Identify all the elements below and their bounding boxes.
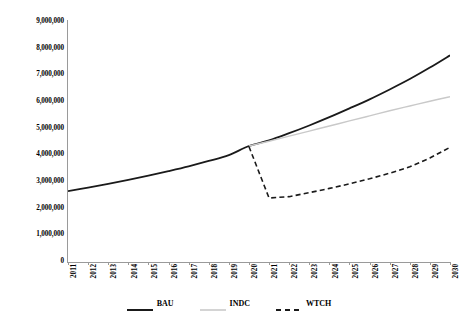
legend-swatch-wtch bbox=[276, 300, 302, 308]
x-axis-tick-label: 2015 bbox=[152, 264, 159, 278]
x-axis-tick-mark bbox=[128, 262, 129, 265]
x-axis-tick-mark bbox=[88, 262, 89, 265]
series-line-wtch bbox=[249, 147, 450, 198]
x-axis-tick-mark bbox=[169, 262, 170, 265]
legend-item-indc[interactable]: INDC bbox=[200, 300, 250, 308]
legend-item-bau[interactable]: BAU bbox=[127, 300, 174, 308]
x-axis-tick-label: 2021 bbox=[272, 264, 279, 278]
x-axis-labels: 2011201220132014201520162017201820192020… bbox=[68, 264, 450, 304]
x-axis-tick-label: 2030 bbox=[453, 264, 460, 278]
legend-item-wtch[interactable]: WTCH bbox=[276, 300, 331, 308]
x-axis-tick-mark bbox=[229, 262, 230, 265]
x-axis-tick-mark bbox=[349, 262, 350, 265]
x-axis-tick-label: 2012 bbox=[91, 264, 98, 278]
x-axis-tick-label: 2016 bbox=[172, 264, 179, 278]
x-axis-tick-mark bbox=[209, 262, 210, 265]
y-axis-tick-label: 1,000,000 bbox=[2, 232, 64, 239]
x-axis-tick-mark bbox=[370, 262, 371, 265]
y-axis-tick-label: 0 bbox=[2, 258, 64, 265]
x-axis-tick-label: 2028 bbox=[413, 264, 420, 278]
x-axis-tick-mark bbox=[189, 262, 190, 265]
y-axis-tick-label: 9,000,000 bbox=[2, 18, 64, 25]
x-axis-tick-label: 2019 bbox=[232, 264, 239, 278]
x-axis-tick-label: 2026 bbox=[373, 264, 380, 278]
x-axis-tick-mark bbox=[68, 262, 69, 265]
x-axis-tick-mark bbox=[249, 262, 250, 265]
x-axis-tick-label: 2025 bbox=[353, 264, 360, 278]
x-axis-tick-mark bbox=[430, 262, 431, 265]
plot-area bbox=[68, 22, 450, 262]
x-axis-tick-label: 2011 bbox=[71, 264, 78, 278]
y-axis-tick-label: 4,000,000 bbox=[2, 152, 64, 159]
legend-label: BAU bbox=[157, 300, 174, 308]
y-axis-tick-label: 5,000,000 bbox=[2, 125, 64, 132]
x-axis-tick-mark bbox=[450, 262, 451, 265]
x-axis-tick-label: 2023 bbox=[312, 264, 319, 278]
chart-legend: BAUINDCWTCH bbox=[0, 300, 458, 308]
x-axis-tick-mark bbox=[108, 262, 109, 265]
x-axis-tick-mark bbox=[410, 262, 411, 265]
x-axis-tick-mark bbox=[329, 262, 330, 265]
legend-label: WTCH bbox=[306, 300, 331, 308]
y-axis-tick-label: 7,000,000 bbox=[2, 72, 64, 79]
x-axis-tick-label: 2024 bbox=[333, 264, 340, 278]
x-axis-tick-label: 2014 bbox=[132, 264, 139, 278]
x-axis-tick-mark bbox=[269, 262, 270, 265]
x-axis-tick-label: 2020 bbox=[252, 264, 259, 278]
x-axis-tick-mark bbox=[289, 262, 290, 265]
y-axis-tick-label: 6,000,000 bbox=[2, 98, 64, 105]
x-axis-tick-label: 2027 bbox=[393, 264, 400, 278]
legend-swatch-indc bbox=[200, 300, 226, 308]
y-axis-tick-label: 2,000,000 bbox=[2, 205, 64, 212]
y-axis-labels: 01,000,0002,000,0003,000,0004,000,0005,0… bbox=[0, 0, 64, 325]
series-line-indc bbox=[249, 97, 450, 146]
y-axis-tick-label: 8,000,000 bbox=[2, 45, 64, 52]
series-layer bbox=[68, 22, 450, 262]
x-axis-tick-label: 2022 bbox=[292, 264, 299, 278]
x-axis-tick-label: 2018 bbox=[212, 264, 219, 278]
legend-label: INDC bbox=[230, 300, 250, 308]
x-axis-tick-mark bbox=[390, 262, 391, 265]
x-axis-line bbox=[67, 262, 451, 263]
x-axis-tick-label: 2029 bbox=[433, 264, 440, 278]
x-axis-tick-label: 2017 bbox=[192, 264, 199, 278]
x-axis-tick-mark bbox=[148, 262, 149, 265]
x-axis-tick-label: 2013 bbox=[111, 264, 118, 278]
y-axis-tick-label: 3,000,000 bbox=[2, 178, 64, 185]
legend-swatch-bau bbox=[127, 300, 153, 308]
x-axis-tick-mark bbox=[309, 262, 310, 265]
